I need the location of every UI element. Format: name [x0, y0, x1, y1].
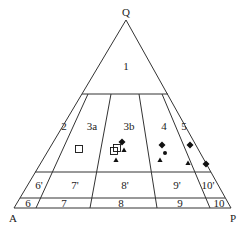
- vertex-label-a: A: [9, 212, 17, 224]
- field-label-9: 9: [177, 197, 183, 209]
- field-label-2: 2: [61, 120, 67, 132]
- divider-2-3a: [36, 94, 88, 208]
- field-label-6p: 6': [35, 179, 43, 191]
- field-label-9p: 9': [173, 179, 181, 191]
- field-label-10: 10: [214, 197, 226, 209]
- filled-triangle-marker-icon: [121, 147, 126, 152]
- field-label-7: 7: [61, 197, 67, 209]
- field-label-8: 8: [118, 197, 124, 209]
- vertex-label-q: Q: [122, 6, 130, 18]
- field-label-3b: 3b: [124, 120, 136, 132]
- field-label-1: 1: [123, 60, 129, 72]
- field-label-10p: 10': [202, 179, 215, 191]
- divider-3b-4: [139, 94, 157, 208]
- open-square-marker-icon: [76, 146, 83, 153]
- field-label-8p: 8': [121, 179, 129, 191]
- filled-diamond-marker-icon: [203, 161, 210, 168]
- filled-dot-marker-icon: [163, 151, 167, 155]
- filled-triangle-marker-icon: [113, 157, 118, 162]
- field-label-7p: 7': [71, 179, 79, 191]
- divider-3a-3b: [90, 94, 111, 208]
- open-square-marker-icon: [111, 148, 118, 155]
- field-label-5: 5: [181, 120, 187, 132]
- field-label-3a: 3a: [87, 120, 98, 132]
- open-square-marker-icon: [114, 145, 121, 152]
- field-label-4: 4: [161, 120, 167, 132]
- data-markers: [76, 139, 210, 168]
- field-label-6: 6: [25, 197, 31, 209]
- filled-diamond-marker-icon: [159, 142, 166, 149]
- filled-triangle-marker-icon: [157, 157, 162, 162]
- vertex-label-p: P: [230, 212, 236, 224]
- ternary-diagram: Q A P 1 2 3a 3b 4 5 6' 7' 8' 9' 10' 6 7 …: [0, 0, 242, 231]
- filled-diamond-marker-icon: [187, 142, 194, 149]
